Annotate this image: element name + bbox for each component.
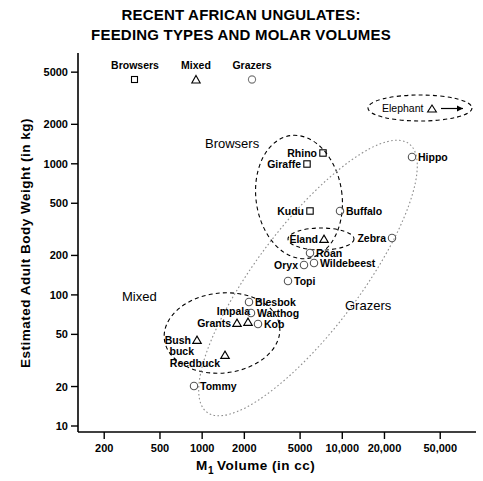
data-point: Kudu: [277, 205, 313, 217]
data-point: Zebra: [357, 232, 395, 244]
marker-triangle-icon: [221, 351, 230, 358]
data-point-label: Reedbuck: [170, 357, 220, 369]
x-axis-title: M 1 Volume (in cc): [196, 458, 315, 476]
marker-triangle-icon: [193, 336, 202, 343]
x-tick-label: 500: [151, 442, 169, 454]
marker-circle-icon: [300, 261, 307, 268]
marker-circle-icon: [408, 153, 415, 160]
cluster-label: Grazers: [345, 298, 392, 313]
data-point-label: Grants: [197, 317, 231, 329]
x-tick-label: 10,000: [325, 442, 359, 454]
data-point-label: Impala: [217, 305, 250, 317]
data-point: Hippo: [408, 151, 447, 163]
data-point-label: Wildebeest: [320, 257, 376, 269]
y-tick-label: 50: [56, 328, 68, 340]
data-point: Kob: [254, 318, 284, 330]
data-point: Grants: [197, 317, 241, 329]
data-point: Eland: [289, 233, 328, 245]
marker-circle-icon: [336, 207, 343, 214]
data-point-label: Eland: [289, 233, 318, 245]
cluster-labels: BrowsersMixedGrazers: [122, 136, 392, 313]
legend-circle-icon: [248, 76, 255, 83]
elephant-callout: Elephant: [368, 95, 472, 121]
marker-triangle-icon: [244, 318, 253, 325]
legend-triangle-icon: [192, 76, 200, 84]
x-tick-label: 2000: [232, 442, 256, 454]
legend-label-browsers: Browsers: [111, 59, 159, 71]
marker-circle-icon: [284, 277, 291, 284]
data-point-label: Buffalo: [346, 205, 382, 217]
data-point-label: Tommy: [200, 380, 237, 392]
y-tick-label: 200: [50, 249, 68, 261]
elephant-triangle-marker: [428, 105, 437, 112]
marker-circle-icon: [310, 259, 317, 266]
data-point-label: Oryx: [274, 259, 298, 271]
y-tick-label: 500: [50, 197, 68, 209]
x-tick-label: 20,000: [368, 442, 402, 454]
x-axis-title-main: M: [196, 458, 208, 473]
y-tick-label: 100: [50, 289, 68, 301]
y-tick-label: 20: [56, 381, 68, 393]
y-tick-label: 5000: [44, 66, 68, 78]
marker-circle-icon: [190, 382, 197, 389]
marker-circle-icon: [388, 234, 395, 241]
y-tick-label: 2000: [44, 118, 68, 130]
x-axis-title-subscript: 1: [208, 465, 214, 476]
data-point-label: Kob: [264, 318, 284, 330]
scatter-plot: RECENT AFRICAN UNGULATES: FEEDING TYPES …: [0, 0, 483, 481]
y-tick-label: 1000: [44, 158, 68, 170]
data-point: Tommy: [190, 380, 236, 392]
marker-triangle-icon: [233, 319, 242, 326]
data-point-label: Kudu: [277, 205, 304, 217]
elephant-arrow-head-icon: [457, 106, 463, 112]
marker-circle-icon: [306, 249, 313, 256]
x-axis-ticks: 20050010002000500010,00020,00050,000: [95, 432, 457, 454]
data-point: Wildebeest: [310, 257, 376, 269]
chart-page: RECENT AFRICAN UNGULATES: FEEDING TYPES …: [0, 0, 483, 481]
y-tick-label: 10: [56, 420, 68, 432]
data-point: Topi: [284, 275, 315, 287]
x-axis-title-rest: Volume (in cc): [217, 458, 315, 473]
data-point-label-cont: buck: [169, 345, 194, 357]
title-line-1: RECENT AFRICAN UNGULATES:: [121, 6, 360, 23]
legend-label-mixed: Mixed: [181, 59, 211, 71]
marker-triangle-icon: [320, 235, 329, 242]
data-point-label: Zebra: [357, 232, 386, 244]
elephant-callout-label: Elephant: [382, 102, 424, 114]
marker-square-icon: [304, 161, 310, 167]
title-line-2: FEEDING TYPES AND MOLAR VOLUMES: [91, 26, 391, 43]
data-point-label: Hippo: [418, 151, 448, 163]
y-axis-title: Estimated Adult Body Weight (in kg): [18, 118, 33, 368]
chart-title: RECENT AFRICAN UNGULATES: FEEDING TYPES …: [91, 6, 391, 43]
chart-legend: Browsers Mixed Grazers: [111, 59, 272, 83]
data-point: Giraffe: [267, 158, 310, 170]
legend-label-grazers: Grazers: [232, 59, 271, 71]
legend-square-icon: [132, 77, 138, 83]
data-point: Oryx: [274, 259, 308, 271]
marker-square-icon: [320, 150, 326, 156]
x-tick-label: 5000: [288, 442, 312, 454]
data-point-layer: RhinoGiraffeKuduElandImpalaGrantsBushbuc…: [165, 147, 448, 392]
data-point-label: Giraffe: [267, 158, 301, 170]
data-point: Buffalo: [336, 205, 382, 217]
marker-square-icon: [307, 208, 313, 214]
data-point-label: Topi: [294, 275, 315, 287]
cluster-label: Mixed: [122, 289, 157, 304]
cluster-label: Browsers: [205, 136, 260, 151]
x-tick-label: 200: [95, 442, 113, 454]
x-tick-label: 1000: [190, 442, 214, 454]
y-axis-ticks: 102050100200500100020005000: [44, 66, 78, 432]
x-tick-label: 50,000: [423, 442, 457, 454]
data-point: Bushbuck: [165, 334, 202, 357]
marker-circle-icon: [254, 320, 261, 327]
